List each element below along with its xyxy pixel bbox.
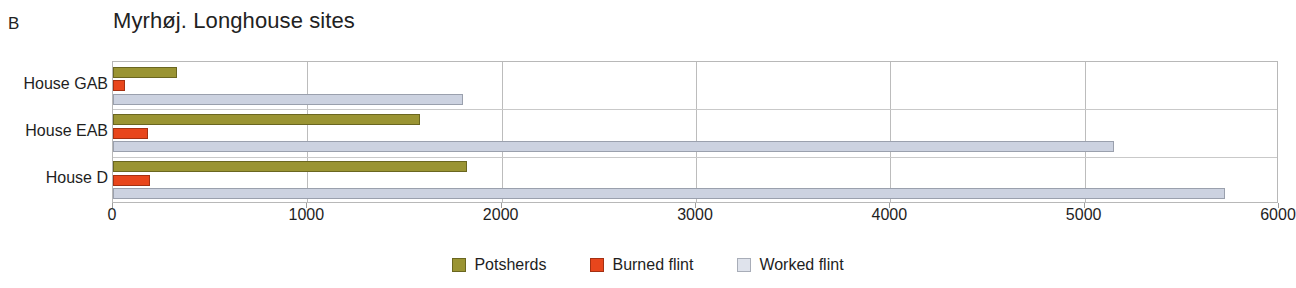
plot-area [112, 61, 1278, 203]
x-axis-tick-mark [1278, 203, 1279, 208]
gridline-vertical [890, 62, 891, 202]
legend-item-worked-flint[interactable]: Worked flint [737, 256, 843, 274]
bar-worked-flint-house-d [113, 188, 1225, 199]
bar-burned-flint-house-eab [113, 128, 148, 139]
x-axis-tick-mark [1084, 203, 1085, 208]
x-axis-tick-label: 4000 [872, 206, 908, 224]
legend-swatch-icon [452, 258, 466, 272]
panel-label: B [8, 14, 20, 34]
gridline-horizontal [113, 157, 1277, 158]
x-axis-tick-mark [501, 203, 502, 208]
x-axis-tick-mark [306, 203, 307, 208]
x-axis-tick-label: 0 [108, 206, 117, 224]
bar-burned-flint-house-gab [113, 80, 125, 91]
legend-label: Worked flint [759, 256, 843, 274]
y-axis-label-house-eab: House EAB [25, 122, 108, 140]
y-axis-label-house-gab: House GAB [24, 75, 108, 93]
legend-item-potsherds[interactable]: Potsherds [452, 256, 546, 274]
chart-figure: B Myrhøj. Longhouse sites House GABHouse… [0, 0, 1296, 288]
bar-worked-flint-house-gab [113, 94, 463, 105]
chart-title: Myrhøj. Longhouse sites [113, 8, 355, 34]
x-axis-tick-mark [695, 203, 696, 208]
legend-label: Burned flint [612, 256, 693, 274]
bar-potsherds-house-eab [113, 114, 420, 125]
gridline-vertical [696, 62, 697, 202]
gridline-horizontal [113, 109, 1277, 110]
legend-swatch-icon [590, 258, 604, 272]
x-axis-tick-label: 2000 [483, 206, 519, 224]
gridline-vertical [307, 62, 308, 202]
bar-potsherds-house-d [113, 161, 467, 172]
x-axis-tick-mark [889, 203, 890, 208]
gridline-vertical [1085, 62, 1086, 202]
x-axis-tick-label: 3000 [677, 206, 713, 224]
x-axis-tick-mark [112, 203, 113, 208]
legend-item-burned-flint[interactable]: Burned flint [590, 256, 693, 274]
legend-label: Potsherds [474, 256, 546, 274]
bar-potsherds-house-gab [113, 67, 177, 78]
x-axis-tick-label: 5000 [1066, 206, 1102, 224]
x-axis-tick-label: 1000 [289, 206, 325, 224]
bar-burned-flint-house-d [113, 175, 150, 186]
bar-worked-flint-house-eab [113, 141, 1114, 152]
y-axis-label-house-d: House D [46, 169, 108, 187]
gridline-vertical [502, 62, 503, 202]
x-axis-tick-label: 6000 [1260, 206, 1296, 224]
chart-legend: PotsherdsBurned flintWorked flint [0, 256, 1296, 274]
legend-swatch-icon [737, 258, 751, 272]
